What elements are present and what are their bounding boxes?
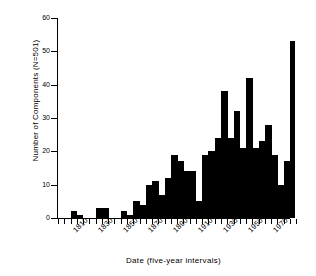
y-axis-label: Number of Components (N=501) <box>31 6 40 196</box>
x-axis-label: Date (five-year intervals) <box>57 256 290 265</box>
y-tick-label: 60 <box>18 14 50 21</box>
y-tick-mark <box>51 18 57 19</box>
x-tick-mark <box>64 219 65 224</box>
y-tick-mark <box>51 151 57 152</box>
x-tick-mark <box>296 219 297 224</box>
histogram-bar-max <box>290 41 295 218</box>
histogram-bar <box>102 208 109 218</box>
x-tick-mark <box>96 219 97 224</box>
y-tick-label: 20 <box>18 147 50 154</box>
x-tick-mark <box>246 219 247 224</box>
x-tick-mark <box>71 219 72 224</box>
y-tick-label: 40 <box>18 81 50 88</box>
y-tick-mark <box>51 118 57 119</box>
x-tick-mark <box>171 219 172 224</box>
y-tick-mark <box>51 218 57 219</box>
y-tick-mark <box>51 85 57 86</box>
x-tick-mark <box>271 219 272 224</box>
x-tick-mark <box>121 219 122 224</box>
y-tick-label: 50 <box>18 47 50 54</box>
y-tick-label: 0 <box>18 214 50 221</box>
x-tick-mark <box>221 219 222 224</box>
y-tick-mark <box>51 51 57 52</box>
histogram-bars <box>58 18 290 218</box>
y-tick-label: 10 <box>18 181 50 188</box>
x-tick-mark <box>58 219 59 224</box>
x-tick-mark <box>146 219 147 224</box>
histogram-figure: Number of Components (N=501) 01020304050… <box>0 0 316 276</box>
y-tick-label: 30 <box>18 114 50 121</box>
y-tick-mark <box>51 185 57 186</box>
histogram-bar <box>77 215 84 218</box>
x-tick-mark <box>196 219 197 224</box>
